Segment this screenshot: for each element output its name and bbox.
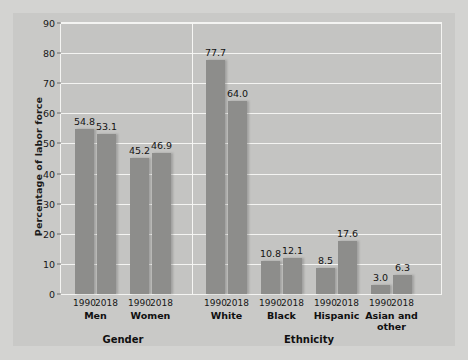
bar: 53.1 <box>97 134 116 294</box>
y-tick-label: 40 <box>43 168 55 179</box>
gridline <box>61 204 441 205</box>
y-tick-label: 70 <box>43 78 55 89</box>
x-tick-year-label: 1990 <box>128 298 151 308</box>
bar: 17.6 <box>338 241 357 294</box>
gridline <box>61 143 441 144</box>
group-separator-line <box>192 23 193 294</box>
gridline <box>61 83 441 84</box>
bar-value-label: 53.1 <box>96 121 117 132</box>
bar-value-label: 46.9 <box>151 140 172 151</box>
y-tick-label: 80 <box>43 48 55 59</box>
plot-area: 0102030405060708090 54.853.145.246.977.7… <box>60 22 442 295</box>
y-tick-mark <box>57 143 61 144</box>
x-tick-year-label: 2018 <box>150 298 173 308</box>
y-tick-label: 90 <box>43 18 55 29</box>
y-tick-mark <box>57 203 61 204</box>
x-tick-year-label: 1990 <box>369 298 392 308</box>
x-tick-year-label: 2018 <box>391 298 414 308</box>
bar: 46.9 <box>152 153 171 294</box>
bar-value-label: 77.7 <box>205 47 226 58</box>
bar: 8.5 <box>316 268 335 294</box>
x-tick-year-label: 2018 <box>281 298 304 308</box>
bar-value-label: 54.8 <box>74 116 95 127</box>
x-tick-year-label: 2018 <box>226 298 249 308</box>
y-axis-title: Percentage of labor force <box>33 67 44 267</box>
gridline <box>61 234 441 235</box>
x-tick-year-label: 2018 <box>95 298 118 308</box>
y-tick-label: 0 <box>49 289 55 300</box>
bar-value-label: 45.2 <box>129 145 150 156</box>
y-tick-label: 10 <box>43 258 55 269</box>
gridline <box>61 53 441 54</box>
bar: 10.8 <box>261 261 280 294</box>
bar-value-label: 10.8 <box>260 248 281 259</box>
bar: 64.0 <box>228 101 247 294</box>
y-tick-mark <box>57 113 61 114</box>
x-tick-year-label: 2018 <box>336 298 359 308</box>
y-tick-label: 60 <box>43 108 55 119</box>
gridline <box>61 23 441 24</box>
x-axis-group-title: Gender <box>63 334 183 345</box>
gridline <box>61 113 441 114</box>
gridline <box>61 264 441 265</box>
bar-value-label: 6.3 <box>395 262 410 273</box>
y-tick-mark <box>57 294 61 295</box>
bar-value-label: 64.0 <box>227 88 248 99</box>
bar-value-label: 12.1 <box>282 245 303 256</box>
bar: 77.7 <box>206 60 225 294</box>
gridline <box>61 174 441 175</box>
y-tick-mark <box>57 173 61 174</box>
x-tick-year-label: 1990 <box>314 298 337 308</box>
figure: Percentage of labor force 01020304050607… <box>0 0 468 360</box>
y-tick-mark <box>57 233 61 234</box>
bar: 12.1 <box>283 258 302 294</box>
x-axis-group-title: Ethnicity <box>249 334 369 345</box>
y-tick-mark <box>57 23 61 24</box>
bar-value-label: 17.6 <box>337 228 358 239</box>
bar: 3.0 <box>371 285 390 294</box>
x-tick-year-label: 1990 <box>73 298 96 308</box>
y-tick-mark <box>57 83 61 84</box>
y-tick-label: 50 <box>43 138 55 149</box>
bar-value-label: 8.5 <box>318 255 333 266</box>
y-tick-mark <box>57 53 61 54</box>
bar: 45.2 <box>130 158 149 294</box>
bar: 6.3 <box>393 275 412 294</box>
x-tick-year-label: 1990 <box>204 298 227 308</box>
y-tick-label: 30 <box>43 198 55 209</box>
bar-value-label: 3.0 <box>373 272 388 283</box>
bar: 54.8 <box>75 129 94 294</box>
chart-panel: Percentage of labor force 01020304050607… <box>13 13 455 346</box>
x-axis-category-label: Asian and other <box>347 310 437 332</box>
x-tick-year-label: 1990 <box>259 298 282 308</box>
y-tick-mark <box>57 263 61 264</box>
y-tick-label: 20 <box>43 228 55 239</box>
